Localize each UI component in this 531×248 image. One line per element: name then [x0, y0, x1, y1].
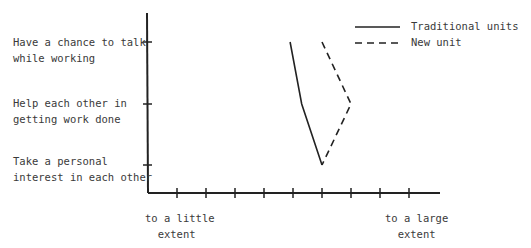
series-traditional-units: [290, 42, 322, 165]
legend-new-label: New unit: [411, 34, 462, 50]
x-label-little: to a little extent: [145, 210, 215, 242]
series-new-unit: [322, 42, 351, 165]
y-label-interest: Take a personal interest in each other: [13, 153, 152, 185]
y-label-talk: Have a chance to talk while working: [13, 34, 146, 66]
legend-traditional-label: Traditional units: [411, 18, 518, 34]
y-label-help: Help each other in getting work done: [13, 95, 127, 127]
x-label-large: to a large extent: [385, 210, 448, 242]
